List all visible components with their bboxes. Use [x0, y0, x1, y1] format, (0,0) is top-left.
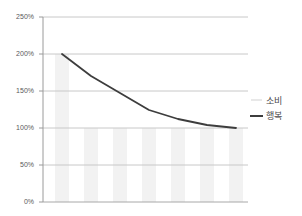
- legend-item-haengbok[interactable]: 행복: [250, 108, 300, 123]
- legend-label-haengbok: 행복: [266, 111, 282, 121]
- ytick-label-100: 100%: [2, 124, 34, 132]
- chart-container: 250% 200% 150% 100% 50% 0% 소비 행복: [0, 0, 302, 216]
- ytick-label-200: 200%: [2, 50, 34, 58]
- ytick-label-250: 250%: [2, 13, 34, 21]
- legend-label-sobi: 소비: [266, 96, 282, 106]
- chart-legend: 소비 행복: [250, 93, 300, 123]
- ytick-label-0: 0%: [2, 198, 34, 206]
- legend-item-sobi[interactable]: 소비: [250, 93, 300, 108]
- legend-bar-swatch-icon: [250, 96, 263, 105]
- y-axis-ticks: [39, 17, 43, 202]
- ytick-label-150: 150%: [2, 87, 34, 95]
- ytick-label-50: 50%: [2, 161, 34, 169]
- legend-line-swatch-icon: [250, 111, 263, 120]
